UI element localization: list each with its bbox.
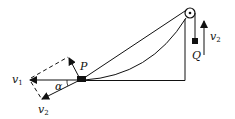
pulley-axle: [189, 12, 192, 15]
physics-diagram: Q v2 P v1 v2 α: [0, 0, 235, 119]
block-q: [192, 38, 198, 44]
label-q: Q: [192, 49, 201, 62]
dashed-line-top: [31, 57, 68, 78]
dashed-line-bottom: [31, 82, 41, 98]
perpendicular-component-arrow: [69, 58, 79, 77]
rope-straight: [84, 9, 188, 78]
label-v1: v1: [12, 73, 23, 87]
label-v2-right: v2: [210, 30, 221, 44]
label-alpha: α: [55, 80, 63, 93]
label-p: P: [79, 60, 88, 73]
block-p: [77, 76, 86, 82]
label-v2-left: v2: [38, 103, 49, 117]
angle-arc: [67, 80, 68, 86]
curved-track: [84, 18, 186, 80]
